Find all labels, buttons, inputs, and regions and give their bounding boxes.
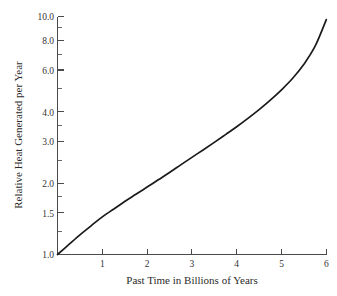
y-label-1-0: 1.0 (42, 250, 54, 260)
x-tick-labels: 1 2 3 4 5 6 (100, 259, 329, 269)
y-axis-title: Relative Heat Generated per Year (12, 61, 24, 209)
chart-canvas: 1.0 1.5 2.0 3.0 4.0 6.0 8.0 10.0 1 2 3 4… (0, 0, 337, 296)
x-axis-title: Past Time in Billions of Years (126, 274, 257, 286)
x-label-2: 2 (145, 259, 150, 269)
y-label-3-0: 3.0 (42, 137, 54, 147)
axes-group (58, 17, 327, 255)
x-label-3: 3 (190, 259, 195, 269)
chart-figure: 1.0 1.5 2.0 3.0 4.0 6.0 8.0 10.0 1 2 3 4… (0, 0, 337, 296)
x-label-1: 1 (100, 259, 105, 269)
x-label-5: 5 (279, 259, 284, 269)
y-tick-labels: 1.0 1.5 2.0 3.0 4.0 6.0 8.0 10.0 (37, 12, 54, 260)
y-label-1-5: 1.5 (42, 209, 54, 219)
y-label-4-0: 4.0 (42, 108, 54, 118)
x-label-6: 6 (324, 259, 329, 269)
y-label-10-0: 10.0 (37, 12, 54, 22)
x-tick-marks (102, 249, 326, 255)
data-curve (58, 20, 327, 255)
y-tick-marks (58, 17, 64, 255)
y-label-8-0: 8.0 (42, 36, 54, 46)
x-label-4: 4 (234, 259, 239, 269)
y-label-6-0: 6.0 (42, 66, 54, 76)
y-label-2-0: 2.0 (42, 179, 54, 189)
